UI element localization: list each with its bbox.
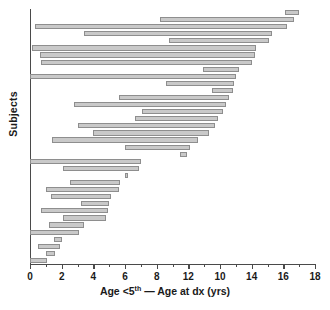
- plot-area: 024681210141618: [30, 9, 315, 264]
- bar: [52, 137, 198, 142]
- bar: [285, 10, 299, 15]
- bar: [81, 201, 110, 206]
- bar: [49, 222, 84, 227]
- bar: [41, 208, 108, 213]
- x-tick-label: 18: [309, 271, 320, 282]
- x-tick-label: 14: [246, 271, 257, 282]
- bar: [84, 31, 272, 36]
- x-tick-minor: [299, 264, 300, 267]
- bar: [78, 123, 216, 128]
- bar: [46, 251, 56, 256]
- y-axis-title: Subjects: [7, 69, 19, 159]
- x-tick-major: [93, 264, 94, 269]
- bar: [54, 237, 62, 242]
- x-tick-minor: [46, 264, 47, 267]
- x-tick-major: [125, 264, 126, 269]
- bar: [166, 81, 234, 86]
- bar: [125, 145, 190, 150]
- x-tick-minor: [78, 264, 79, 267]
- bar: [70, 180, 121, 185]
- bar: [135, 116, 219, 121]
- x-tick-label: 16: [278, 271, 289, 282]
- x-tick-major: [157, 264, 158, 269]
- bar: [46, 187, 119, 192]
- bar: [30, 159, 141, 164]
- x-axis-title: Age <5th — Age at dx (yrs): [0, 285, 330, 297]
- bar: [169, 38, 269, 43]
- bar: [74, 102, 226, 107]
- x-tick-label: 4: [91, 271, 97, 282]
- bar: [125, 173, 128, 178]
- bar: [212, 88, 233, 93]
- bar: [93, 130, 209, 135]
- bar: [203, 67, 239, 72]
- x-tick-label: 8: [154, 271, 160, 282]
- x-tick-major: [283, 264, 284, 269]
- x-tick-major: [62, 264, 63, 269]
- x-tick-label: 6: [122, 271, 128, 282]
- x-tick-minor: [236, 264, 237, 267]
- x-tick-label: 12: [183, 271, 194, 282]
- x-tick-minor: [141, 264, 142, 267]
- bar: [160, 17, 295, 22]
- bar: [63, 215, 106, 220]
- bar: [30, 230, 79, 235]
- x-tick-minor: [204, 264, 205, 267]
- x-tick-major: [315, 264, 316, 269]
- bar: [30, 258, 47, 263]
- x-tick-major: [30, 264, 31, 269]
- x-tick-major: [220, 264, 221, 269]
- bar: [142, 109, 223, 114]
- bar: [38, 244, 60, 249]
- x-tick-label: 2: [59, 271, 65, 282]
- x-tick-major: [252, 264, 253, 269]
- bar: [32, 45, 257, 50]
- bar: [119, 95, 230, 100]
- bar: [180, 152, 186, 157]
- bar: [40, 52, 255, 57]
- bar: [51, 194, 111, 199]
- bar: [63, 166, 139, 171]
- bar: [35, 24, 287, 29]
- x-tick-minor: [109, 264, 110, 267]
- bar: [41, 60, 252, 65]
- x-axis-title-post: — Age at dx (yrs): [141, 285, 230, 297]
- chart-figure: Subjects 024681210141618 Age <5th — Age …: [0, 0, 330, 310]
- x-axis-title-pre: Age <5: [100, 285, 135, 297]
- x-tick-label: 0: [27, 271, 33, 282]
- x-tick-minor: [173, 264, 174, 267]
- bar: [30, 74, 236, 79]
- x-tick-label: 10: [214, 271, 225, 282]
- x-tick-minor: [268, 264, 269, 267]
- x-tick-major: [188, 264, 189, 269]
